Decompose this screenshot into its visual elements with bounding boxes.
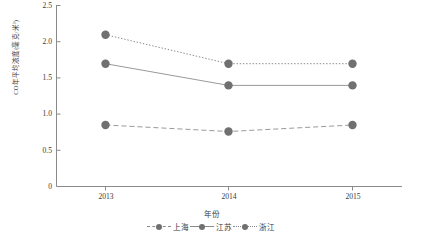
- y-tick-label-1-5: 1.5: [26, 73, 52, 82]
- y-axis-title: CO年平均浓度(毫克/米³): [13, 0, 20, 117]
- data-point-marker: [224, 81, 232, 89]
- line-chart-figure: 2.5 2.0 1.5 1.0 0.5 0 2013 2014 2015 CO年…: [0, 0, 423, 239]
- data-point-marker: [224, 60, 232, 68]
- data-point-marker: [101, 121, 109, 129]
- data-point-marker: [101, 31, 109, 39]
- data-point-marker: [101, 60, 109, 68]
- y-tick-label-2-0: 2.0: [26, 37, 52, 46]
- data-point-marker: [224, 127, 232, 135]
- y-tick-label-0-5: 0.5: [26, 146, 52, 155]
- legend-line-dashed-icon: [147, 223, 171, 231]
- legend-item-jiangsu[interactable]: 江苏: [190, 221, 233, 232]
- plot-area: [0, 0, 423, 239]
- y-tick-label-1-0: 1.0: [26, 109, 52, 118]
- series-line-zhejiang: [101, 121, 356, 136]
- data-point-marker: [348, 81, 356, 89]
- x-axis-title: 年份: [0, 208, 423, 219]
- data-point-marker: [348, 60, 356, 68]
- series-line-shanghai: [101, 31, 356, 68]
- x-tick-label-2015: 2015: [333, 192, 373, 201]
- x-axis-ticks: [106, 187, 353, 191]
- legend-marker-icon: [199, 224, 205, 230]
- x-tick-label-2013: 2013: [86, 192, 126, 201]
- legend-marker-icon: [156, 224, 162, 230]
- legend-label-zhejiang: 浙江: [259, 221, 276, 232]
- legend-item-shanghai[interactable]: 上海: [147, 221, 190, 232]
- y-tick-label-2-5: 2.5: [26, 1, 52, 10]
- chart-legend: 上海 江苏 浙江: [0, 221, 423, 232]
- legend-item-zhejiang[interactable]: 浙江: [233, 221, 276, 232]
- legend-label-jiangsu: 江苏: [216, 221, 233, 232]
- x-tick-label-2014: 2014: [209, 192, 249, 201]
- legend-line-dotted-icon: [233, 223, 257, 231]
- y-axis-ticks: [57, 6, 61, 151]
- y-tick-label-0: 0: [26, 182, 52, 191]
- legend-line-solid-icon: [190, 223, 214, 231]
- legend-label-shanghai: 上海: [173, 221, 190, 232]
- legend-marker-icon: [242, 224, 248, 230]
- data-point-marker: [348, 121, 356, 129]
